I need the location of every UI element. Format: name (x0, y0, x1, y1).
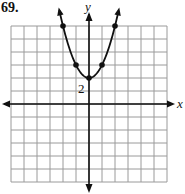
curve-right-arrow-icon (114, 7, 120, 15)
x-axis-label: x (176, 96, 183, 111)
x-axis-right-arrow-icon (167, 101, 175, 108)
data-point (86, 75, 92, 81)
vertex-label: 2 (78, 81, 85, 96)
y-axis-down-arrow-icon (86, 184, 93, 193)
y-axis-label: y (83, 0, 91, 14)
data-point (73, 62, 79, 68)
data-point (60, 23, 66, 29)
x-axis-left-arrow-icon (2, 101, 10, 108)
data-point (99, 62, 105, 68)
data-point (112, 23, 118, 29)
curve-left-arrow-icon (57, 7, 63, 15)
coordinate-plane: x y 2 (0, 0, 185, 194)
